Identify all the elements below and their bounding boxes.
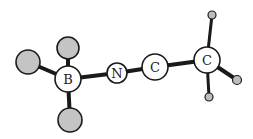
carbon-2-label: C	[202, 53, 212, 68]
substituent-atom-bottom	[58, 108, 82, 132]
molecule-diagram: B N C C	[0, 0, 253, 139]
boron-label: B	[63, 72, 73, 87]
nitrogen-label: N	[111, 66, 122, 81]
hydrogen-atom-right	[233, 76, 242, 85]
substituent-atom-top	[57, 37, 79, 59]
hydrogen-atom-top	[208, 11, 216, 19]
hydrogen-atom-bottom	[205, 93, 213, 101]
substituent-atom-left	[16, 50, 40, 74]
carbon-1-label: C	[150, 60, 160, 75]
